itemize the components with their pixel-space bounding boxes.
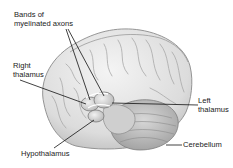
label-right-thalamus: Right thalamus xyxy=(13,62,44,79)
label-cerebellum: Cerebellum xyxy=(183,141,222,150)
label-bands-of-myelinated-axons: Bands of myelinated axons xyxy=(14,11,73,28)
label-left-thalamus: Left thalamus xyxy=(198,97,229,114)
left-thalamus-shape xyxy=(94,92,114,108)
label-hypothalamus: Hypothalamus xyxy=(21,150,70,159)
brain-diagram: Bands of myelinated axons Right thalamus… xyxy=(0,0,233,168)
hypothalamus-shape xyxy=(88,110,104,122)
